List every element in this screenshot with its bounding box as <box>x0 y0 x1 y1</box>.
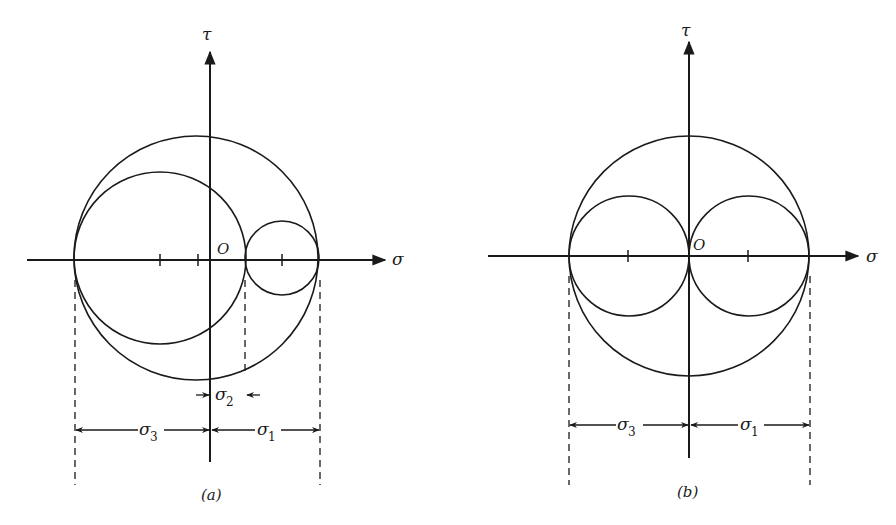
origin-label-b: O <box>693 236 705 254</box>
svg-text:3: 3 <box>628 425 636 439</box>
svg-text:1: 1 <box>268 430 276 444</box>
caption-a: (a) <box>201 486 222 504</box>
tau-axis-label-a: τ <box>202 24 212 44</box>
sigma3-label-a: σ 3 <box>139 419 158 444</box>
panel-a: σ τ O σ 2 σ 3 σ 1 <box>27 24 404 504</box>
svg-text:1: 1 <box>751 425 759 439</box>
mohr-circle-figure: σ τ O σ 2 σ 3 σ 1 <box>0 0 896 525</box>
svg-text:3: 3 <box>150 430 158 444</box>
panel-b: σ τ O σ 3 σ 1 (b) <box>488 20 878 501</box>
svg-text:2: 2 <box>226 395 234 409</box>
sigma1-label-b: σ 1 <box>740 414 759 439</box>
caption-b: (b) <box>677 483 698 501</box>
origin-label-a: O <box>217 240 229 258</box>
sigma3-label-b: σ 3 <box>617 414 636 439</box>
sigma2-label-a: σ 2 <box>215 384 234 409</box>
tau-axis-label-b: τ <box>681 20 691 40</box>
sigma-axis-label-a: σ <box>392 249 404 269</box>
sigma1-label-a: σ 1 <box>257 419 276 444</box>
sigma-axis-label-b: σ <box>866 246 878 266</box>
